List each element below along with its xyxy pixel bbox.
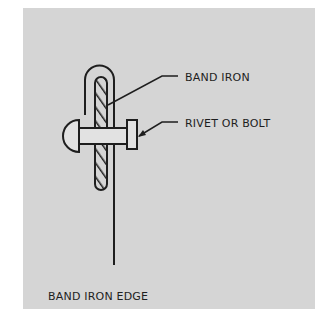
band-iron-label: BAND IRON bbox=[185, 72, 250, 83]
band-iron-rivet-drawing bbox=[0, 0, 330, 321]
rivet-or-bolt-label: RIVET OR BOLT bbox=[185, 118, 270, 129]
rivet-collar bbox=[127, 120, 137, 149]
rivet-shank bbox=[79, 128, 128, 144]
band-iron-leader bbox=[108, 76, 178, 105]
rivet-head bbox=[63, 120, 79, 152]
rivet-leader-arrowhead bbox=[138, 130, 146, 137]
band-iron-edge-label: BAND IRON EDGE bbox=[48, 291, 148, 302]
